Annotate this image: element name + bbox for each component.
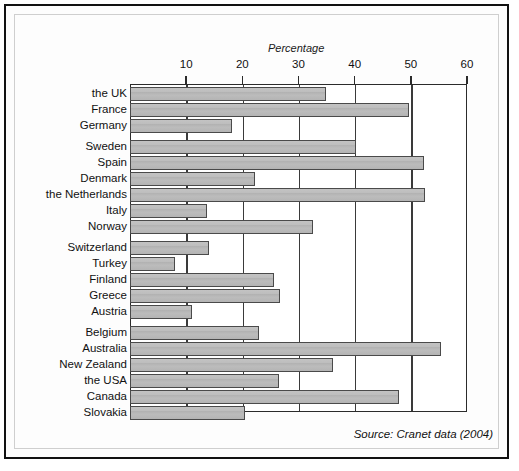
bar-denmark (130, 172, 255, 186)
category-label-australia: Australia (0, 341, 127, 356)
bar-turkey (130, 257, 175, 271)
category-label-spain: Spain (0, 155, 127, 170)
category-label-france: France (0, 102, 127, 117)
category-label-the-usa: the USA (0, 373, 127, 388)
bar-row: Italy (0, 204, 519, 218)
category-label-greece: Greece (0, 288, 127, 303)
bar-norway (130, 220, 313, 234)
bar-row: Canada (0, 390, 519, 404)
bar-the-netherlands (130, 188, 425, 202)
bar-row: Greece (0, 289, 519, 303)
category-label-sweden: Sweden (0, 139, 127, 154)
bar-row: Turkey (0, 257, 519, 271)
bar-austria (130, 305, 192, 319)
category-label-italy: Italy (0, 203, 127, 218)
bar-chart: Percentage 102030405060 the UKFranceGerm… (0, 0, 519, 471)
bar-row: Switzerland (0, 241, 519, 255)
bar-rows: the UKFranceGermanySwedenSpainDenmarkthe… (0, 84, 519, 412)
bar-greece (130, 289, 280, 303)
bar-row: the Netherlands (0, 188, 519, 202)
x-tick-mark-40 (354, 76, 356, 84)
category-label-new-zealand: New Zealand (0, 357, 127, 372)
bar-row: Belgium (0, 326, 519, 340)
bar-row: Germany (0, 119, 519, 133)
bar-row: Spain (0, 156, 519, 170)
bar-france (130, 103, 409, 117)
x-axis-title: Percentage (268, 42, 324, 54)
x-tick-mark-30 (298, 76, 300, 84)
bar-row: Norway (0, 220, 519, 234)
bar-slovakia (130, 406, 245, 420)
category-label-finland: Finland (0, 272, 127, 287)
bar-sweden (130, 140, 356, 154)
figure-page: Percentage 102030405060 the UKFranceGerm… (0, 0, 519, 471)
bar-germany (130, 119, 232, 133)
x-tick-label-50: 50 (404, 58, 417, 70)
bar-finland (130, 273, 274, 287)
bar-the-uk (130, 87, 326, 101)
bar-row: New Zealand (0, 358, 519, 372)
x-tick-label-30: 30 (292, 58, 305, 70)
category-label-turkey: Turkey (0, 256, 127, 271)
x-tick-mark-20 (242, 76, 244, 84)
category-label-denmark: Denmark (0, 171, 127, 186)
bar-new-zealand (130, 358, 333, 372)
bar-row: the USA (0, 374, 519, 388)
bar-row: Austria (0, 305, 519, 319)
bar-row: Australia (0, 342, 519, 356)
bar-row: Denmark (0, 172, 519, 186)
source-note: Source: Cranet data (2004) (0, 428, 493, 440)
category-label-the-netherlands: the Netherlands (0, 187, 127, 202)
bar-belgium (130, 326, 259, 340)
bar-row: the UK (0, 87, 519, 101)
x-tick-label-10: 10 (180, 58, 193, 70)
x-tick-mark-10 (185, 76, 187, 84)
category-label-canada: Canada (0, 389, 127, 404)
x-tick-mark-60 (466, 76, 468, 84)
bar-row: France (0, 103, 519, 117)
bar-row: Sweden (0, 140, 519, 154)
x-tick-label-60: 60 (461, 58, 474, 70)
bar-row: Slovakia (0, 406, 519, 420)
x-tick-label-20: 20 (236, 58, 249, 70)
category-label-norway: Norway (0, 219, 127, 234)
category-label-belgium: Belgium (0, 325, 127, 340)
bar-italy (130, 204, 207, 218)
category-label-the-uk: the UK (0, 86, 127, 101)
bar-row: Finland (0, 273, 519, 287)
bar-spain (130, 156, 424, 170)
bar-switzerland (130, 241, 209, 255)
bar-australia (130, 342, 441, 356)
bar-canada (130, 390, 399, 404)
x-tick-label-40: 40 (348, 58, 361, 70)
bar-the-usa (130, 374, 279, 388)
category-label-austria: Austria (0, 304, 127, 319)
category-label-switzerland: Switzerland (0, 240, 127, 255)
category-label-slovakia: Slovakia (0, 405, 127, 420)
category-label-germany: Germany (0, 118, 127, 133)
x-tick-mark-50 (410, 76, 412, 84)
